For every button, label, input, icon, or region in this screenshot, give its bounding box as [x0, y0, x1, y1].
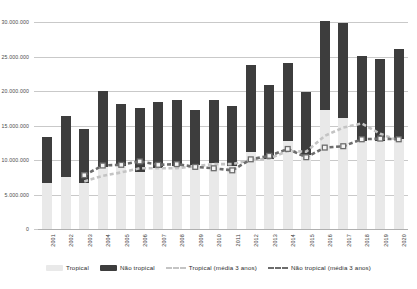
x-axis-label-2011: 2011: [235, 234, 241, 246]
y-tick-mark: [34, 195, 38, 196]
legend-swatch-icon: [166, 267, 186, 269]
gridline-25000000: [38, 57, 408, 58]
bar-group-2015[interactable]: [301, 22, 311, 229]
bar-group-2016[interactable]: [320, 22, 330, 229]
bar-group-2011[interactable]: [227, 22, 237, 229]
bar-tropical-2001[interactable]: [42, 183, 52, 229]
bar-nao-tropical-2014[interactable]: [283, 63, 293, 141]
chart-legend: TropicalNão tropicalTropical (média 3 an…: [0, 264, 417, 271]
bar-group-2006[interactable]: [135, 22, 145, 229]
legend-item-0[interactable]: Tropical: [46, 264, 89, 271]
bar-nao-tropical-2017[interactable]: [338, 23, 348, 118]
legend-item-1[interactable]: Não tropical: [100, 264, 155, 271]
bar-nao-tropical-2004[interactable]: [98, 91, 108, 167]
bar-nao-tropical-2013[interactable]: [264, 85, 274, 160]
bar-nao-tropical-2020[interactable]: [394, 49, 404, 139]
x-axis-label-2009: 2009: [198, 234, 204, 247]
x-axis-label-2016: 2016: [327, 234, 333, 247]
bar-group-2002[interactable]: [61, 22, 71, 229]
bar-nao-tropical-2018[interactable]: [357, 56, 367, 142]
bar-tropical-2006[interactable]: [135, 172, 145, 229]
bar-tropical-2004[interactable]: [98, 167, 108, 229]
x-axis-label-2014: 2014: [290, 234, 296, 247]
bar-nao-tropical-2007[interactable]: [153, 102, 163, 168]
bar-nao-tropical-2009[interactable]: [190, 110, 200, 165]
bar-nao-tropical-2011[interactable]: [227, 106, 237, 165]
x-axis-label-2019: 2019: [383, 234, 389, 247]
bar-group-2017[interactable]: [338, 22, 348, 229]
x-axis-label-2020: 2020: [401, 234, 407, 247]
bar-group-2010[interactable]: [209, 22, 219, 229]
bar-group-2003[interactable]: [79, 22, 89, 229]
x-axis-label-2013: 2013: [272, 234, 278, 247]
bar-tropical-2008[interactable]: [172, 166, 182, 229]
bar-nao-tropical-2016[interactable]: [320, 21, 330, 110]
y-tick-mark: [34, 229, 38, 230]
bar-nao-tropical-2008[interactable]: [172, 100, 182, 166]
x-axis-label-2007: 2007: [161, 234, 167, 247]
bar-tropical-2019[interactable]: [375, 141, 385, 229]
bar-tropical-2005[interactable]: [116, 166, 126, 229]
bar-nao-tropical-2006[interactable]: [135, 108, 145, 172]
bar-nao-tropical-2005[interactable]: [116, 104, 126, 166]
bar-group-2020[interactable]: [394, 22, 404, 229]
bar-group-2004[interactable]: [98, 22, 108, 229]
bar-tropical-2002[interactable]: [61, 177, 71, 229]
y-axis-label: 30.000.000: [2, 19, 29, 25]
bar-group-2013[interactable]: [264, 22, 274, 229]
gridline-30000000: [38, 22, 408, 23]
plot-area: 05.000.00010.000.00015.000.00020.000.000…: [38, 22, 408, 229]
bar-nao-tropical-2001[interactable]: [42, 137, 52, 183]
bar-group-2014[interactable]: [283, 22, 293, 229]
x-axis-label-2005: 2005: [124, 234, 130, 247]
bar-nao-tropical-2010[interactable]: [209, 100, 219, 163]
bar-group-2008[interactable]: [172, 22, 182, 229]
y-tick-mark: [34, 126, 38, 127]
legend-label: Tropical (média 3 anos): [189, 264, 257, 271]
y-tick-mark: [34, 57, 38, 58]
bar-tropical-2003[interactable]: [79, 183, 89, 229]
legend-label: Não tropical (média 3 anos): [291, 264, 371, 271]
x-axis-label-2008: 2008: [179, 234, 185, 247]
y-axis-label: 25.000.000: [2, 54, 29, 60]
bar-tropical-2011[interactable]: [227, 166, 237, 229]
y-axis-label: 20.000.000: [2, 88, 29, 94]
bar-tropical-2017[interactable]: [338, 118, 348, 229]
legend-swatch-icon: [100, 265, 117, 271]
bar-tropical-2007[interactable]: [153, 168, 163, 229]
legend-item-2[interactable]: Tropical (média 3 anos): [166, 264, 257, 271]
gridline-15000000: [38, 126, 408, 127]
bar-nao-tropical-2012[interactable]: [246, 65, 256, 152]
bar-nao-tropical-2002[interactable]: [61, 116, 71, 177]
bar-tropical-2009[interactable]: [190, 165, 200, 229]
y-axis-label: 5.000.000: [5, 192, 29, 198]
bar-tropical-2014[interactable]: [283, 141, 293, 229]
gridline-10000000: [38, 160, 408, 161]
bar-tropical-2016[interactable]: [320, 110, 330, 229]
bar-tropical-2018[interactable]: [357, 141, 367, 229]
legend-item-3[interactable]: Não tropical (média 3 anos): [268, 264, 371, 271]
y-axis-label: 10.000.000: [2, 157, 29, 163]
bar-nao-tropical-2019[interactable]: [375, 59, 385, 141]
x-axis-label-2001: 2001: [50, 234, 56, 247]
bar-nao-tropical-2003[interactable]: [79, 129, 89, 183]
bar-tropical-2013[interactable]: [264, 159, 274, 229]
bar-tropical-2015[interactable]: [301, 155, 311, 229]
bar-tropical-2012[interactable]: [246, 152, 256, 229]
bar-tropical-2020[interactable]: [394, 139, 404, 229]
legend-swatch-icon: [268, 267, 288, 269]
bar-group-2005[interactable]: [116, 22, 126, 229]
bar-group-2001[interactable]: [42, 22, 52, 229]
legend-label: Tropical: [66, 264, 89, 271]
x-axis-label-2003: 2003: [87, 234, 93, 247]
bar-group-2019[interactable]: [375, 22, 385, 229]
bar-group-2018[interactable]: [357, 22, 367, 229]
bar-tropical-2010[interactable]: [209, 163, 219, 229]
gridline-5000000: [38, 195, 408, 196]
y-tick-mark: [34, 22, 38, 23]
bar-group-2012[interactable]: [246, 22, 256, 229]
bar-group-2007[interactable]: [153, 22, 163, 229]
x-axis-label-2004: 2004: [105, 234, 111, 247]
bar-group-2009[interactable]: [190, 22, 200, 229]
bar-nao-tropical-2015[interactable]: [301, 92, 311, 155]
